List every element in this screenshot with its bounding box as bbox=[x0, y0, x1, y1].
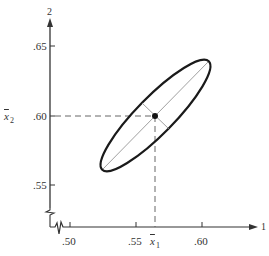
y-mean-label: x2 bbox=[4, 111, 14, 125]
y-tick-label-060: .60 bbox=[33, 111, 47, 122]
x-tick-label-060: .60 bbox=[194, 236, 208, 247]
x-axis bbox=[50, 222, 258, 234]
y-axis-label: 2 bbox=[47, 7, 52, 17]
x-tick-label-055: .55 bbox=[128, 236, 142, 247]
y-axis bbox=[46, 18, 55, 227]
mean-point bbox=[152, 113, 158, 119]
y-tick-label-055: .55 bbox=[33, 180, 47, 191]
x-tick-label-050: .50 bbox=[62, 236, 76, 247]
x-mean-label: x1 bbox=[150, 236, 160, 250]
confidence-ellipse bbox=[89, 48, 222, 182]
y-tick-label-065: .65 bbox=[33, 41, 47, 52]
diagram-canvas bbox=[0, 0, 269, 256]
x-axis-label: 1 bbox=[261, 222, 266, 232]
